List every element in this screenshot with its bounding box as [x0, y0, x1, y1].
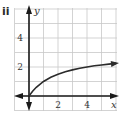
y-tick-label: 2	[17, 62, 23, 72]
y-axis-down-arrow-icon	[26, 102, 32, 111]
x-axis-label: x	[111, 99, 117, 110]
x-tick-label: 2	[55, 100, 61, 110]
y-tick-label: 4	[17, 33, 23, 43]
tick-labels: 2424	[17, 33, 90, 110]
y-axis-up-arrow-icon	[26, 5, 32, 14]
x-axis-left-arrow-icon	[14, 93, 23, 99]
chart: 2424 x y	[0, 0, 125, 119]
curve-arrow-icon	[111, 61, 119, 67]
y-axis-label: y	[33, 5, 40, 16]
x-tick-label: 4	[84, 100, 90, 110]
